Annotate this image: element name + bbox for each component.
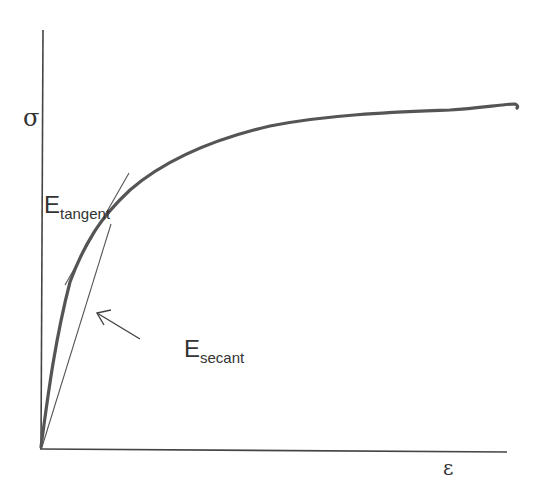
secant-label-main: E [184,335,200,362]
tangent-label-main: E [44,191,60,218]
secant-line [42,224,111,447]
secant-label-sub: secant [200,349,244,366]
y-axis-label: σ [23,106,39,130]
stress-strain-curve [41,104,518,447]
tangent-modulus-label: Etangent [44,193,110,221]
arrow-icon [97,310,140,339]
x-axis-label: ε [443,458,453,478]
y-axis [41,30,43,449]
secant-modulus-label: Esecant [184,337,244,365]
x-axis [40,449,507,452]
stress-strain-diagram [0,0,544,489]
tangent-label-sub: tangent [60,205,110,222]
